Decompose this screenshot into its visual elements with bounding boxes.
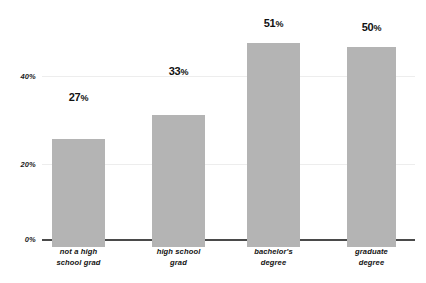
x-tick-label-4-line1: graduate xyxy=(335,246,408,257)
bar-value-label-1: 27% xyxy=(52,91,105,103)
bar-value-label-2: 33% xyxy=(152,65,205,77)
bar-value-label-3: 51% xyxy=(247,17,300,29)
bar-value-percent-1: % xyxy=(81,93,89,103)
bar-group-graduate-degree[interactable]: 50% xyxy=(347,8,396,247)
x-tick-label-1-line2: school grad xyxy=(42,257,115,268)
bar-value-number-1: 27 xyxy=(69,91,81,103)
bar-chart: 40% 20% 0% 27% 33% 51% 50% not a high xyxy=(0,0,426,283)
bar-value-label-4: 50% xyxy=(347,21,396,33)
bar-rect-4[interactable] xyxy=(347,47,396,247)
y-tick-label-0: 0% xyxy=(2,235,36,244)
x-tick-label-1-line1: not a high xyxy=(42,246,115,257)
bar-value-percent-4: % xyxy=(374,23,382,33)
x-tick-label-3-line1: bachelor's xyxy=(237,246,310,257)
y-tick-label-20: 20% xyxy=(2,160,36,169)
bar-value-number-2: 33 xyxy=(169,65,181,77)
bar-group-bachelors-degree[interactable]: 51% xyxy=(247,8,300,247)
y-tick-label-40: 40% xyxy=(2,72,36,81)
bar-value-number-4: 50 xyxy=(362,21,374,33)
bar-group-high-school-grad[interactable]: 33% xyxy=(152,8,205,247)
x-tick-label-high-school-grad: high school grad xyxy=(142,246,215,268)
x-tick-label-2-line1: high school xyxy=(142,246,215,257)
x-tick-label-4-line2: degree xyxy=(335,257,408,268)
x-tick-label-2-line2: grad xyxy=(142,257,215,268)
bar-rect-3[interactable] xyxy=(247,43,300,247)
bar-group-not-a-high-school-grad[interactable]: 27% xyxy=(52,8,105,247)
x-tick-label-not-a-high-school-grad: not a high school grad xyxy=(42,246,115,268)
x-tick-label-graduate-degree: graduate degree xyxy=(335,246,408,268)
bar-value-percent-2: % xyxy=(181,67,189,77)
bar-value-number-3: 51 xyxy=(264,17,276,29)
x-tick-label-bachelors-degree: bachelor's degree xyxy=(237,246,310,268)
x-tick-label-3-line2: degree xyxy=(237,257,310,268)
bar-rect-2[interactable] xyxy=(152,115,205,247)
bar-rect-1[interactable] xyxy=(52,139,105,247)
bar-value-percent-3: % xyxy=(276,19,284,29)
